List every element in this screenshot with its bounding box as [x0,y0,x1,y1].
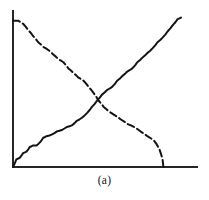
figure-caption: (a) [0,173,209,187]
line-chart-plot [0,0,209,200]
chart-background [0,0,209,200]
figure-container: (a) [0,0,209,200]
